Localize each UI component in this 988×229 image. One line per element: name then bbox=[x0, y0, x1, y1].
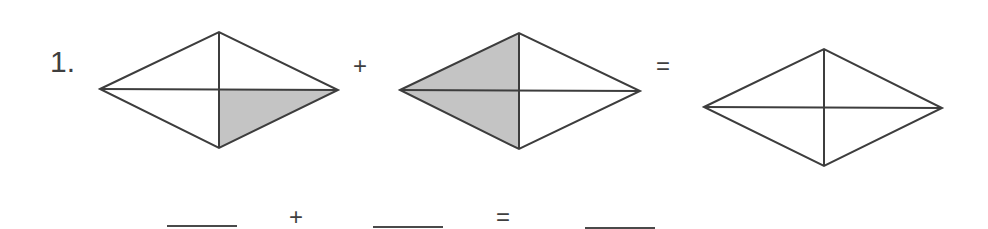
answer-equals-sign: = bbox=[496, 205, 510, 229]
diamond-3 bbox=[704, 49, 942, 166]
answer-plus-sign: + bbox=[289, 205, 303, 229]
answer-blank-3[interactable] bbox=[585, 227, 655, 229]
diamond-1 bbox=[100, 32, 338, 148]
answer-blank-2[interactable] bbox=[373, 226, 443, 228]
fraction-diagram bbox=[0, 0, 988, 229]
plus-sign: + bbox=[353, 54, 367, 78]
answer-blank-1[interactable] bbox=[167, 225, 237, 227]
diamond-2 bbox=[400, 33, 640, 149]
equals-sign: = bbox=[656, 54, 670, 78]
